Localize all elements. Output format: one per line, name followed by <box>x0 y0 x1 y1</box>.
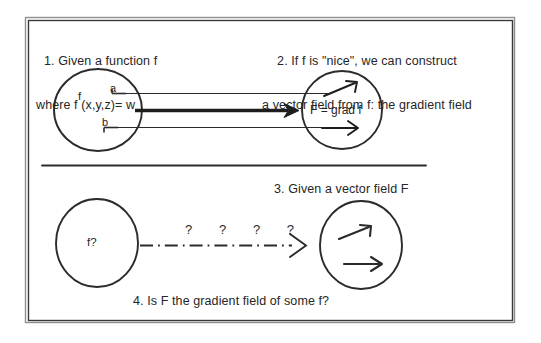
panel-2-caption-line2: a vector field from f: the gradient fiel… <box>222 98 512 113</box>
field-vector-arrow-right <box>344 257 382 271</box>
function-circle-label: f <box>78 90 81 104</box>
point-a-label: a <box>110 82 116 95</box>
question-marks-annotation: ? ? ? ? <box>185 222 301 237</box>
panel-3-caption: 3. Given a vector field F <box>274 182 409 197</box>
panel-2-caption-line1: 2. If f is "nice", we can construct <box>222 54 512 69</box>
panel-1-caption-line1: 1. Given a function f <box>36 54 216 69</box>
panel-1-caption-line2: where f (x,y,z)= w <box>36 98 216 113</box>
slide-canvas: 1. Given a function f where f (x,y,z)= w… <box>0 0 541 343</box>
field-vector-arrow-up <box>339 225 371 239</box>
dash-dot-question-arrow <box>140 234 306 257</box>
panel-2-caption: 2. If f is "nice", we can construct a ve… <box>222 24 512 142</box>
panel-1-caption: 1. Given a function f where f (x,y,z)= w <box>36 24 216 142</box>
vector-field-circle <box>320 201 402 289</box>
panel-4-caption: 4. Is F the gradient field of some f? <box>133 294 329 309</box>
unknown-function-label: f? <box>87 236 97 250</box>
gradient-field-label: F = grad f <box>310 103 362 117</box>
unknown-function-circle <box>56 199 138 287</box>
point-b-label: b <box>102 116 108 129</box>
